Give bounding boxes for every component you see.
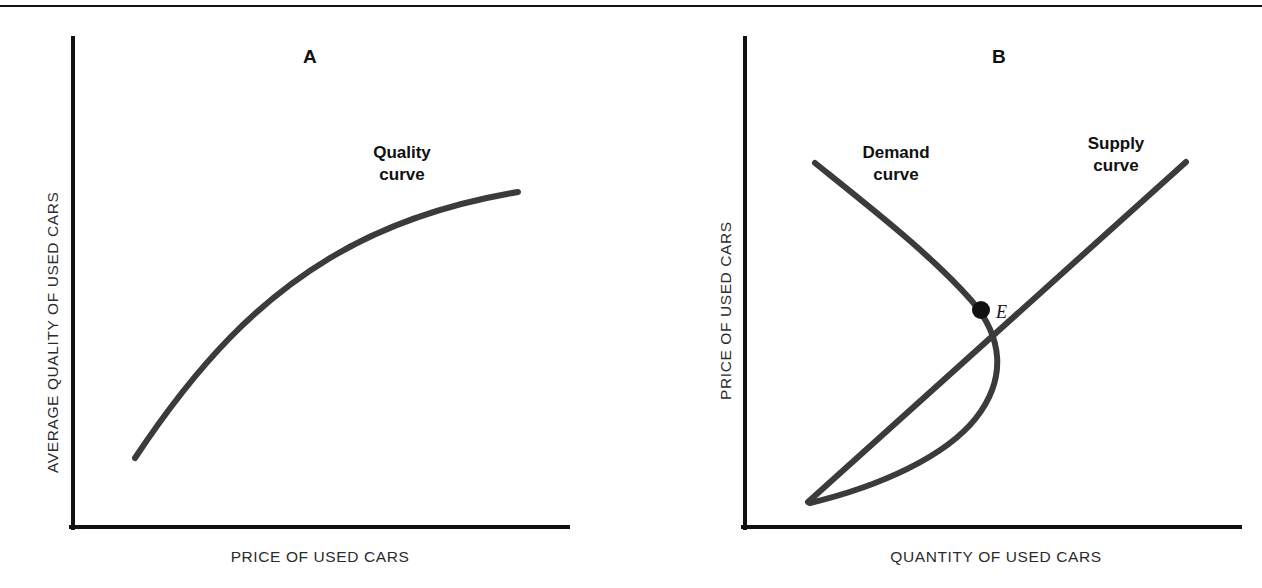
demand-curve: [810, 163, 997, 503]
quality-curve: [135, 192, 518, 458]
panel-a-y-axis-title: AVERAGE QUALITY OF USED CARS: [44, 191, 62, 473]
figure-root: A Quality curve PRICE OF USED CARS AVERA…: [0, 0, 1262, 588]
supply-curve: [808, 162, 1186, 502]
equilibrium-point-marker: [972, 301, 990, 319]
panel-a: A Quality curve PRICE OF USED CARS AVERA…: [0, 0, 631, 588]
supply-curve-label: Supply curve: [1061, 133, 1171, 177]
panel-a-plot: [0, 0, 631, 588]
panel-b: B Demand curve Supply curve E QUANTITY O…: [631, 0, 1262, 588]
quality-curve-label: Quality curve: [332, 142, 472, 186]
panel-b-x-axis-title: QUANTITY OF USED CARS: [846, 548, 1146, 566]
panel-a-x-axis-title: PRICE OF USED CARS: [180, 548, 460, 566]
demand-curve-label: Demand curve: [836, 142, 956, 186]
panel-a-letter: A: [290, 47, 330, 66]
equilibrium-point-label: E: [996, 303, 1007, 321]
panel-b-letter: B: [979, 47, 1019, 66]
panel-b-y-axis-title: PRICE OF USED CARS: [717, 221, 735, 400]
